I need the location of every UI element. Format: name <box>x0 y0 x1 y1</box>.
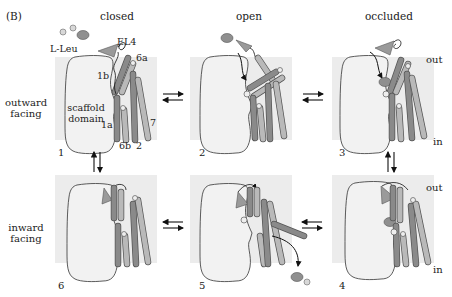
label-helix-2: 2 <box>136 140 142 151</box>
label-helix-7: 7 <box>150 117 156 128</box>
side-label-in-bottom: in <box>433 264 443 275</box>
label-l-leu: L-Leu <box>50 43 78 54</box>
label-el4: EL4 <box>117 36 136 47</box>
state-number-6: 6 <box>58 280 64 291</box>
panel-3 <box>340 40 424 154</box>
label-helix-6b: 6b <box>119 140 131 151</box>
panel-6 <box>67 184 148 282</box>
state-number-1: 1 <box>58 147 64 158</box>
side-label-out-top: out <box>426 54 442 65</box>
column-title-closed: closed <box>100 11 134 22</box>
transport-cycle-figure: (B) closed open occluded outwardfacing i… <box>0 0 452 297</box>
side-label-out-bottom: out <box>426 182 442 193</box>
label-helix-1b: 1b <box>97 70 109 81</box>
state-number-4: 4 <box>339 280 345 291</box>
panel-2 <box>200 34 284 154</box>
state-number-3: 3 <box>339 147 345 158</box>
panel-label: (B) <box>6 11 22 22</box>
row-label-outward: outwardfacing <box>4 97 48 119</box>
label-helix-6a: 6a <box>136 52 148 63</box>
state-number-5: 5 <box>199 280 205 291</box>
side-label-in-top: in <box>433 136 443 147</box>
label-scaffold-domain: scaffolddomain <box>64 102 108 124</box>
column-title-open: open <box>236 11 262 22</box>
row-label-inward: inwardfacing <box>4 222 48 244</box>
column-title-occluded: occluded <box>365 11 413 22</box>
state-number-2: 2 <box>199 147 205 158</box>
